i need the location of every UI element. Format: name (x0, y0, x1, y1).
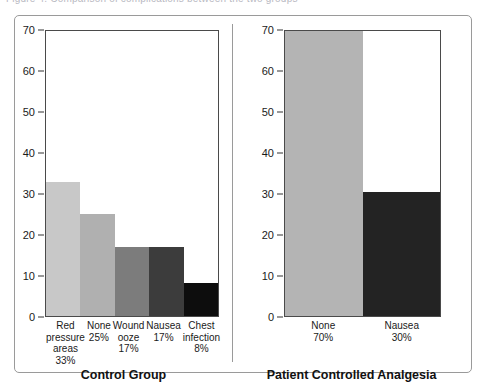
plot-wrap-pca: 0 10 20 30 40 50 60 70 (284, 30, 441, 317)
y-tick-60: 60 (262, 65, 284, 76)
panel-patient-controlled-analgesia: 0 10 20 30 40 50 60 70 (232, 16, 471, 372)
y-tick-mark (38, 234, 44, 235)
y-tick-50: 50 (23, 106, 45, 117)
x-axis-labels-control-group: Red pressure areas 33% None 25% Wound oo… (45, 317, 219, 366)
bar-nausea[interactable] (149, 247, 183, 316)
figure-caption-text: Figure 4. Comparison of complications be… (6, 0, 298, 4)
y-tick-mark (277, 70, 283, 71)
bar-series-control-group (46, 31, 218, 316)
figure-caption-strip: Figure 4. Comparison of complications be… (0, 0, 487, 11)
y-tick-20: 20 (262, 229, 284, 240)
panel-control-group: 0 10 20 30 40 50 60 70 (15, 16, 232, 372)
bar-nausea[interactable] (363, 192, 441, 316)
panel-title-control-group: Control Group (15, 368, 232, 382)
figure-frame: 0 10 20 30 40 50 60 70 (14, 15, 472, 373)
bar-slot-red-pressure-areas (46, 31, 80, 316)
bar-wound-ooze[interactable] (115, 247, 149, 316)
y-tick-0: 0 (29, 312, 45, 323)
x-label-wound-ooze: Wound ooze 17% (112, 320, 146, 366)
x-label-red-pressure-areas: Red pressure areas 33% (45, 320, 86, 366)
y-tick-mark (277, 234, 283, 235)
y-tick-mark (38, 317, 44, 318)
y-tick-70: 70 (23, 25, 45, 36)
bar-series-pca (285, 31, 440, 316)
bar-slot-nausea (363, 31, 441, 316)
x-label-nausea: Nausea 17% (145, 320, 181, 366)
y-tick-mark (277, 193, 283, 194)
x-label-nausea: Nausea 30% (363, 320, 442, 343)
y-tick-70: 70 (262, 25, 284, 36)
bar-slot-none (285, 31, 363, 316)
y-tick-20: 20 (23, 229, 45, 240)
y-tick-mark (277, 275, 283, 276)
plot-area-control-group (45, 30, 219, 317)
y-tick-40: 40 (23, 147, 45, 158)
bar-slot-wound-ooze (115, 31, 149, 316)
bar-slot-nausea (149, 31, 183, 316)
y-tick-mark (277, 152, 283, 153)
y-tick-50: 50 (262, 106, 284, 117)
y-tick-mark (38, 30, 44, 31)
x-label-none: None 70% (284, 320, 363, 343)
y-tick-10: 10 (262, 270, 284, 281)
bar-red-pressure-areas[interactable] (46, 182, 80, 316)
y-tick-mark (38, 193, 44, 194)
y-tick-mark (277, 317, 283, 318)
plot-wrap-control-group: 0 10 20 30 40 50 60 70 (45, 30, 219, 317)
x-axis-labels-pca: None 70% Nausea 30% (284, 317, 441, 343)
y-tick-30: 30 (262, 188, 284, 199)
bar-chest-infection[interactable] (184, 283, 218, 316)
bar-none[interactable] (285, 31, 363, 316)
y-tick-mark (38, 152, 44, 153)
y-tick-mark (277, 30, 283, 31)
x-label-none: None 25% (86, 320, 112, 366)
bar-slot-none (80, 31, 114, 316)
bar-none[interactable] (80, 214, 114, 316)
y-tick-10: 10 (23, 270, 45, 281)
y-tick-0: 0 (268, 312, 284, 323)
bar-slot-chest-infection (184, 31, 218, 316)
y-tick-40: 40 (262, 147, 284, 158)
panel-title-pca: Patient Controlled Analgesia (232, 368, 471, 382)
y-tick-60: 60 (23, 65, 45, 76)
chart-panels: 0 10 20 30 40 50 60 70 (15, 16, 471, 372)
y-tick-mark (277, 111, 283, 112)
x-label-chest-infection: Chest infection 8% (182, 320, 221, 366)
y-tick-mark (38, 275, 44, 276)
y-tick-mark (38, 70, 44, 71)
y-tick-mark (38, 111, 44, 112)
y-tick-30: 30 (23, 188, 45, 199)
plot-area-pca (284, 30, 441, 317)
